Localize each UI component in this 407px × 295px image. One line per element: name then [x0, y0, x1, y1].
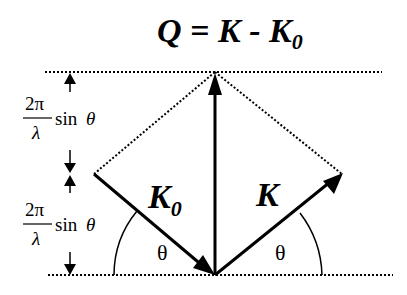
right-dotted-diagonal [215, 72, 342, 174]
k-symbol: K [217, 12, 243, 49]
lower-sin: sin [55, 214, 78, 235]
right-angle-arc [300, 213, 322, 275]
q-symbol: Q [157, 12, 182, 49]
equation-title: Q = K - K0 [157, 12, 303, 54]
theta-left-label: θ [157, 240, 168, 265]
lower-denominator: λ [31, 228, 40, 249]
svg-text:Q = K - K0: Q = K - K0 [157, 12, 303, 54]
left-angle-arc [114, 211, 137, 275]
lower-numerator: 2π [25, 199, 45, 220]
theta-right-label: θ [275, 240, 286, 265]
left-dotted-diagonal [94, 72, 215, 174]
k0-vector-subscript: 0 [171, 196, 182, 221]
upper-spacing-formula: 2π λ sin θ [23, 93, 95, 143]
upper-theta: θ [86, 108, 95, 129]
equals-sign: = [182, 12, 218, 49]
minus-sign: - [241, 12, 269, 49]
k0-subscript: 0 [292, 29, 303, 54]
scattering-vector-diagram: Q = K - K0 K0 K θ θ [0, 0, 407, 295]
k-vector-label: K [255, 176, 281, 213]
k0-symbol: K [268, 12, 294, 49]
upper-denominator: λ [31, 122, 40, 143]
q-vector-arrow [208, 73, 222, 275]
k0-vector-label: K0 [147, 178, 182, 221]
upper-sin: sin [55, 108, 78, 129]
lower-theta: θ [86, 214, 95, 235]
upper-numerator: 2π [25, 93, 45, 114]
lower-spacing-formula: 2π λ sin θ [23, 199, 95, 249]
